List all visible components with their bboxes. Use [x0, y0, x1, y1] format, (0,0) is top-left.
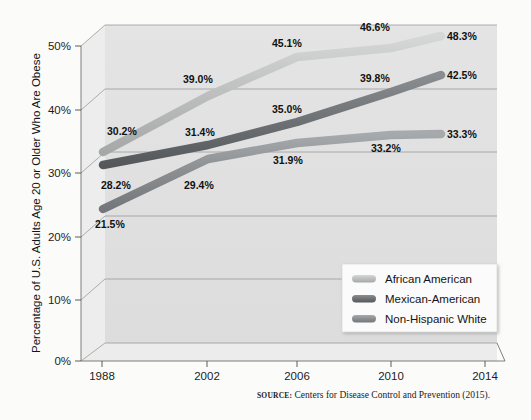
x-tick-label: 2006 — [284, 370, 310, 382]
data-label: 45.1% — [272, 37, 302, 49]
legend: African American Mexican-American Non-Hi… — [342, 264, 497, 332]
y-tick-label: 40% — [48, 104, 71, 116]
data-label: 35.0% — [272, 103, 302, 115]
data-label: 39.0% — [183, 73, 213, 85]
source-text: Centers for Disease Control and Preventi… — [292, 390, 490, 401]
y-tick-label: 10% — [48, 294, 71, 306]
data-label: 29.4% — [184, 179, 214, 191]
legend-label: Mexican-American — [385, 293, 480, 305]
legend-label: Non-Hispanic White — [385, 313, 487, 325]
x-ticks — [102, 361, 485, 367]
legend-swatch-icon — [352, 315, 376, 323]
chart-canvas: 50% 40% 30% 20% 10% 0% Percentage of U.S… — [0, 0, 531, 420]
y-ticks — [75, 46, 81, 361]
y-tick-label: 50% — [48, 40, 71, 52]
data-label: 31.4% — [185, 126, 215, 138]
x-tick-label: 2010 — [378, 370, 404, 382]
data-label: 46.6% — [360, 21, 390, 33]
x-tick-label: 1988 — [89, 370, 115, 382]
data-label: 28.2% — [101, 179, 131, 191]
source-label: SOURCE: — [257, 391, 292, 400]
svg-text:SOURCE: Centers for Disease Co: SOURCE: Centers for Disease Control and … — [257, 390, 490, 401]
data-label: 33.2% — [371, 142, 401, 154]
data-label: 31.9% — [273, 154, 303, 166]
y-tick-label: 30% — [48, 167, 71, 179]
legend-swatch-icon — [352, 295, 376, 303]
data-label: 48.3% — [447, 30, 477, 42]
data-label: 39.8% — [360, 72, 390, 84]
data-label: 30.2% — [107, 125, 137, 137]
y-axis-title: Percentage of U.S. Adults Age 20 or Olde… — [30, 53, 42, 353]
legend-swatch-icon — [352, 275, 376, 283]
data-label: 42.5% — [447, 69, 477, 81]
data-label: 33.3% — [447, 128, 477, 140]
obesity-trend-chart: 50% 40% 30% 20% 10% 0% Percentage of U.S… — [0, 0, 531, 420]
legend-label: African American — [385, 273, 472, 285]
data-label: 21.5% — [95, 218, 125, 230]
x-tick-labels: 1988 2002 2006 2010 2014 — [89, 370, 498, 382]
source-note: SOURCE: Centers for Disease Control and … — [257, 390, 490, 401]
y-tick-label: 0% — [54, 355, 71, 367]
y-tick-label: 20% — [48, 231, 71, 243]
x-tick-label: 2002 — [194, 370, 220, 382]
x-tick-label: 2014 — [472, 370, 498, 382]
y-tick-labels: 50% 40% 30% 20% 10% 0% — [48, 40, 71, 367]
